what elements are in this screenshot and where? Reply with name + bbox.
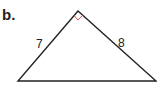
right-leg-label: 8 [118,36,125,50]
right-angle-marker [74,16,83,21]
right-triangle-diagram: 7 8 [0,0,157,92]
left-leg-label: 7 [36,37,43,51]
